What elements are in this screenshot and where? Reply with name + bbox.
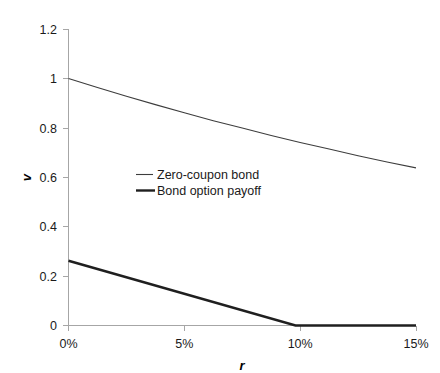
chart-figure: 1.2 1 0.8 0.6 0.4 0.2 0 0% 5% 10% 15% v …	[0, 0, 440, 373]
x-axis-title: r	[239, 358, 245, 373]
y-tick-label-0.2: 0.2	[40, 270, 57, 284]
chart-legend: Zero-coupon bond Bond option payoff	[136, 168, 262, 198]
x-tick-label-10pct: 10%	[288, 337, 313, 351]
line-chart: 1.2 1 0.8 0.6 0.4 0.2 0 0% 5% 10% 15% v …	[0, 0, 440, 373]
series-zero-coupon-bond	[69, 78, 417, 167]
x-tick-label-5pct: 5%	[175, 337, 193, 351]
y-tick-label-1: 1	[50, 72, 57, 86]
series-bond-option-payoff	[69, 261, 417, 326]
y-axis-title: v	[19, 173, 34, 181]
y-tick-label-0.6: 0.6	[40, 171, 57, 185]
x-tick-label-0pct: 0%	[59, 337, 77, 351]
y-tick-label-0: 0	[50, 319, 57, 333]
y-tick-label-1.2: 1.2	[40, 23, 57, 37]
y-tick-label-0.4: 0.4	[40, 220, 57, 234]
legend-label-zero-coupon-bond: Zero-coupon bond	[157, 168, 259, 182]
x-tick-label-15pct: 15%	[403, 337, 428, 351]
legend-label-bond-option-payoff: Bond option payoff	[157, 184, 262, 198]
y-tick-label-0.8: 0.8	[40, 122, 57, 136]
